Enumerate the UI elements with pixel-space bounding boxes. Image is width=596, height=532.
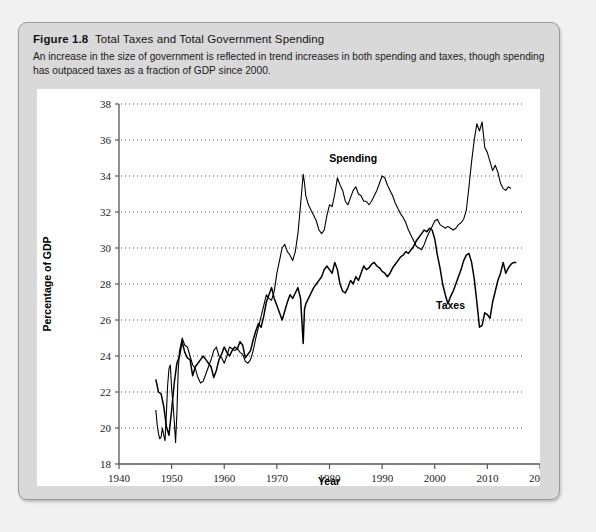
series-label-taxes: Taxes (436, 299, 465, 311)
y-tick-label: 34 (100, 170, 112, 182)
figure-number: Figure 1.8 (33, 33, 88, 45)
x-tick-label: 1960 (213, 472, 236, 484)
y-tick-label: 28 (100, 278, 112, 290)
y-tick-label: 38 (100, 98, 112, 110)
series-line-spending (156, 122, 511, 442)
page-root: Figure 1.8 Total Taxes and Total Governm… (0, 0, 596, 532)
y-tick-label: 36 (100, 134, 112, 146)
x-tick-label: 1940 (108, 472, 131, 484)
figure-card: Figure 1.8 Total Taxes and Total Governm… (18, 22, 560, 500)
gridlines (121, 104, 525, 428)
x-axis-title: Year (318, 475, 340, 486)
x-tick-label: 2010 (476, 472, 499, 484)
line-chart: 1820222426283032343638 19401950196019701… (37, 89, 540, 486)
figure-title-text: Total Taxes and Total Government Spendin… (95, 33, 324, 45)
y-tick-label: 22 (100, 386, 111, 398)
x-tick-label: 2000 (424, 472, 447, 484)
y-tick-label: 18 (100, 458, 112, 470)
y-tick-label: 26 (100, 314, 112, 326)
series-line-taxes (156, 228, 516, 435)
x-tick-label: 2020 (529, 472, 540, 484)
chart-plot-panel: 1820222426283032343638 19401950196019701… (37, 89, 540, 486)
x-tick-label: 1950 (161, 472, 184, 484)
y-tick-label: 30 (100, 242, 112, 254)
y-tick-label: 24 (100, 350, 112, 362)
x-tick-label: 1990 (371, 472, 394, 484)
figure-title: Figure 1.8 Total Taxes and Total Governm… (33, 31, 547, 47)
figure-caption: An increase in the size of government is… (33, 50, 545, 77)
y-axis-title: Percentage of GDP (41, 236, 53, 331)
x-tick-label: 1970 (266, 472, 289, 484)
figure-header: Figure 1.8 Total Taxes and Total Governm… (33, 31, 547, 77)
y-tick-label: 32 (100, 206, 111, 218)
y-axis-ticks: 1820222426283032343638 (100, 98, 119, 470)
y-tick-label: 20 (100, 422, 112, 434)
series-label-spending: Spending (329, 152, 377, 164)
